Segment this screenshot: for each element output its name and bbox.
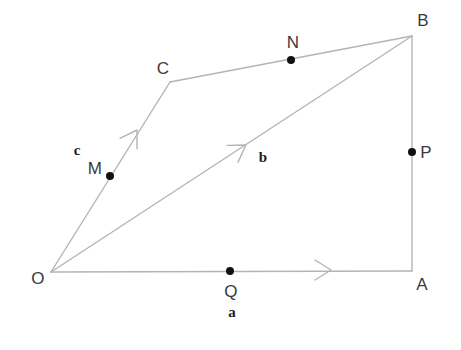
point-dot-m xyxy=(106,172,114,180)
vector-label-a: a xyxy=(228,305,236,320)
point-label-q: Q xyxy=(224,283,237,300)
arrowheads-group xyxy=(120,125,331,280)
point-dot-q xyxy=(226,267,234,275)
arrowhead-a xyxy=(315,260,331,280)
vector-label-b: b xyxy=(259,150,267,165)
point-dots-group xyxy=(106,56,416,275)
point-label-n: N xyxy=(287,34,299,51)
segments-group xyxy=(51,36,412,272)
vertex-label-b: B xyxy=(417,12,429,29)
point-dot-n xyxy=(287,56,295,64)
geometry-figure: OABCMNPQabc xyxy=(0,0,461,350)
point-label-p: P xyxy=(420,144,432,161)
vertex-label-c: C xyxy=(157,60,169,77)
point-label-m: M xyxy=(88,160,102,177)
vector-label-c: c xyxy=(74,143,81,158)
vertex-label-a: A xyxy=(416,276,428,293)
segment-ob xyxy=(51,36,412,272)
vertex-label-o: O xyxy=(31,270,44,287)
point-dot-p xyxy=(408,148,416,156)
